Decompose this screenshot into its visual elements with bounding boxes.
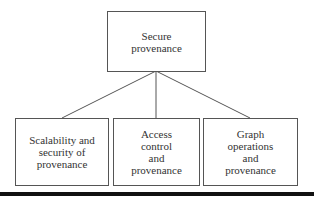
node-label: Access control and provenance [131,128,182,176]
node-scalability-security: Scalability and security of provenance [15,118,109,186]
edge-root-to-graph-operations [156,71,250,118]
bottom-rule-divider [0,192,314,196]
node-graph-operations: Graph operations and provenance [203,118,298,186]
node-secure-provenance: Secure provenance [107,11,206,72]
node-label: Secure provenance [131,30,182,54]
node-access-control: Access control and provenance [113,118,200,186]
edge-root-to-scalability [62,71,156,118]
node-label: Scalability and security of provenance [29,134,95,170]
node-label: Graph operations and provenance [225,128,276,176]
